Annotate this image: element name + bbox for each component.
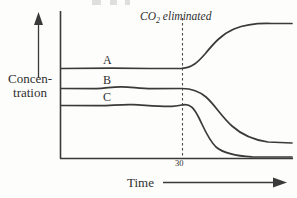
- curve-label-c: C: [103, 91, 111, 104]
- concentration-vs-time-figure: Concen- tration Time CO2 eliminated 30 A…: [0, 0, 297, 198]
- y-axis-label-line1: Concen-: [2, 72, 58, 86]
- curve-a: [61, 23, 292, 68]
- y-axis-label: Concen- tration: [2, 72, 58, 99]
- curve-label-b: B: [103, 74, 111, 87]
- co2-eliminated-label-tail: eliminated: [160, 10, 211, 22]
- x-axis-label: Time: [127, 176, 154, 190]
- curve-b: [61, 87, 292, 143]
- up-arrow-icon: [34, 12, 43, 78]
- x-tick-label-30: 30: [175, 159, 184, 168]
- right-arrow-icon: [163, 178, 287, 188]
- y-axis-label-line2: tration: [2, 86, 58, 100]
- co2-eliminated-label: CO2 eliminated: [140, 10, 211, 26]
- co2-eliminated-label-text: CO: [140, 10, 156, 22]
- curve-c: [61, 105, 292, 157]
- curve-label-a: A: [103, 54, 112, 67]
